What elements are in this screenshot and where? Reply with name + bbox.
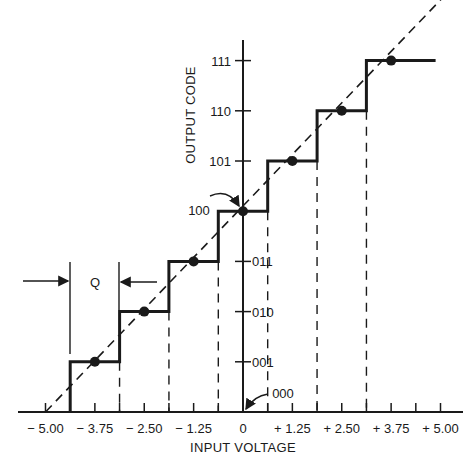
x-tick-label: + 1.25 bbox=[274, 421, 311, 436]
code-center-dot bbox=[139, 307, 149, 317]
x-tick-label: − 3.75 bbox=[77, 421, 114, 436]
code-center-dot bbox=[337, 106, 347, 116]
curved-arrow-icon bbox=[246, 394, 268, 409]
x-tick-label: + 2.50 bbox=[323, 421, 360, 436]
y-tick-label: 101 bbox=[209, 154, 231, 169]
x-axis-title: INPUT VOLTAGE bbox=[190, 440, 296, 455]
adc-transfer-chart: − 5.00− 3.75− 2.50− 1.250+ 1.25+ 2.50+ 3… bbox=[0, 0, 476, 469]
y-axis-title: OUTPUT CODE bbox=[183, 66, 198, 164]
x-axis: − 5.00− 3.75− 2.50− 1.250+ 1.25+ 2.50+ 3… bbox=[18, 403, 463, 436]
x-axis-tick-labels: − 5.00− 3.75− 2.50− 1.250+ 1.25+ 2.50+ 3… bbox=[27, 421, 459, 436]
q-annotation: Q bbox=[23, 262, 157, 354]
code-center-dot bbox=[90, 357, 100, 367]
y-tick-label: 010 bbox=[252, 305, 274, 320]
code-000-callout-label: 000 bbox=[272, 386, 294, 401]
code-100-callout-label: 100 bbox=[188, 203, 210, 218]
y-tick-label: 001 bbox=[252, 355, 274, 370]
x-tick-label: − 1.25 bbox=[175, 421, 212, 436]
x-tick-label: − 2.50 bbox=[126, 421, 163, 436]
code-000-callout: 000 bbox=[246, 386, 294, 409]
q-label: Q bbox=[90, 275, 100, 290]
code-center-dot bbox=[287, 156, 297, 166]
x-tick-label: + 5.00 bbox=[422, 421, 459, 436]
curved-arrow-icon bbox=[210, 194, 239, 206]
x-tick-label: − 5.00 bbox=[27, 421, 64, 436]
y-tick-label: 011 bbox=[252, 254, 273, 269]
x-tick-label: 0 bbox=[239, 421, 246, 436]
y-tick-label: 111 bbox=[211, 54, 231, 69]
y-tick-label: 110 bbox=[210, 104, 231, 119]
code-100-callout: 100 bbox=[188, 194, 239, 218]
code-center-dot bbox=[189, 256, 199, 266]
x-tick-label: + 3.75 bbox=[373, 421, 410, 436]
code-center-dot bbox=[386, 56, 396, 66]
code-center-dot bbox=[238, 206, 248, 216]
